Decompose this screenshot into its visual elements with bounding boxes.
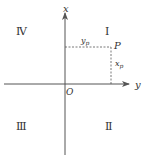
point-x-coordinate-label: xp bbox=[115, 59, 124, 70]
origin-label: O bbox=[66, 87, 74, 97]
quadrant-III-label: Ⅲ bbox=[16, 120, 27, 133]
horizontal-axis-label: y bbox=[134, 79, 141, 90]
quadrant-I-label: Ⅰ bbox=[105, 25, 109, 38]
coordinate-diagram: x y O Ⅰ Ⅱ Ⅲ Ⅳ P yp xp bbox=[0, 0, 144, 166]
quadrant-IV-label: Ⅳ bbox=[16, 25, 28, 38]
point-label: P bbox=[113, 40, 121, 51]
y-subscript: p bbox=[86, 39, 90, 47]
quadrant-II-label: Ⅱ bbox=[105, 120, 112, 133]
point-y-coordinate-label: yp bbox=[80, 36, 90, 47]
x-subscript: p bbox=[120, 62, 124, 70]
vertical-axis-label: x bbox=[63, 3, 69, 14]
